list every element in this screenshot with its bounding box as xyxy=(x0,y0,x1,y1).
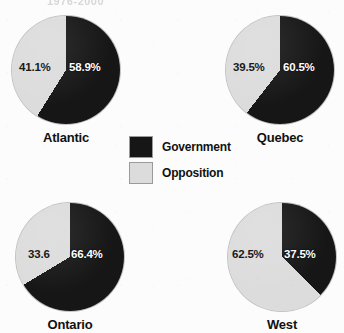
pie-label-opposition: 33.6 xyxy=(28,248,50,260)
pie-quebec: 39.5% 60.5% xyxy=(226,16,334,124)
pie-panel-west: 62.5% 37.5% West xyxy=(228,203,336,333)
pie-label-government: 37.5% xyxy=(284,248,316,260)
pie-label-government: 60.5% xyxy=(283,61,315,73)
pie-atlantic: 41.1% 58.9% xyxy=(12,16,120,124)
pie-label-opposition: 62.5% xyxy=(232,248,264,260)
pie-label-opposition: 39.5% xyxy=(233,61,265,73)
pie-caption-quebec: Quebec xyxy=(226,130,334,145)
legend-swatch-opposition-icon xyxy=(130,163,152,183)
pie-caption-west: West xyxy=(228,317,336,332)
pie-label-opposition: 41.1% xyxy=(19,61,51,73)
pie-ontario: 33.6 66.4% xyxy=(16,203,124,311)
figure-cut-off-title: 1976-2000 xyxy=(47,0,104,7)
pie-panel-ontario: 33.6 66.4% Ontario xyxy=(16,203,124,333)
pie-label-government: 58.9% xyxy=(69,61,101,73)
pie-west: 62.5% 37.5% xyxy=(228,203,336,311)
legend-label-opposition: Opposition xyxy=(162,166,223,180)
pie-panel-quebec: 39.5% 60.5% Quebec xyxy=(226,16,334,148)
legend-label-government: Government xyxy=(162,140,231,154)
legend-swatch-government-icon xyxy=(130,137,152,157)
legend-item-government: Government xyxy=(130,137,231,157)
pie-caption-atlantic: Atlantic xyxy=(12,130,120,145)
pie-caption-ontario: Ontario xyxy=(16,317,124,332)
pie-panel-atlantic: 41.1% 58.9% Atlantic xyxy=(12,16,120,148)
legend-item-opposition: Opposition xyxy=(130,163,223,183)
pie-label-government: 66.4% xyxy=(71,248,103,260)
